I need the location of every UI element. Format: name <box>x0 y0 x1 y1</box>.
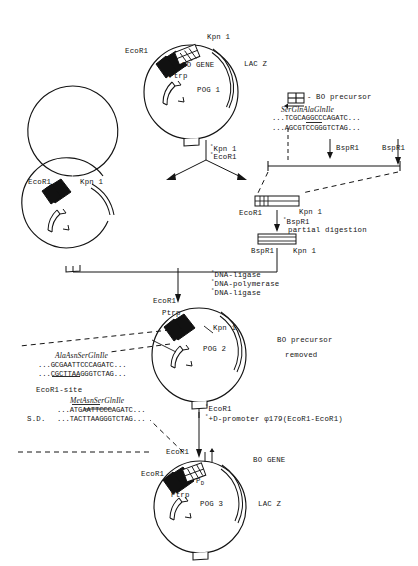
pog1-ptrp-label: Ptrp <box>169 72 188 81</box>
vector-kpn1-label: Kpn 1 <box>80 178 103 187</box>
pog1-kpn1-label: Kpn 1 <box>207 33 230 42</box>
pog2-note-1: BO precursor <box>277 336 333 345</box>
step-partial-2: partial digestion <box>288 226 367 235</box>
seq-top-strand: ...TCGCAGGCCCAGATC... <box>272 114 360 123</box>
seq-mid-top: ...GCGAATTCCCAGATC... <box>38 361 126 370</box>
pog1-ecor1-label: EcoR1 <box>125 47 148 56</box>
pog3-ptrp-label: Ptrp <box>171 491 190 500</box>
pog3-pd-label: PD <box>196 477 204 488</box>
step-dprom-line2: +D-promoter φ179(EcoR1-EcoR1) <box>209 415 343 423</box>
legend-key-label: BO precursor <box>316 93 372 102</box>
fragment-upper-ecor1: EcoR1 <box>239 209 262 218</box>
pog1-bo-gene-label: BO GENE <box>182 61 214 70</box>
pog1-lacz-label: LAC Z <box>244 60 267 69</box>
step-cut1-line2: EcoR1 <box>214 153 237 161</box>
step-cut1b: °EcoR1 <box>210 151 237 163</box>
figure-canvas: Kpn 1 EcoR1 BO GENE Ptrp LAC Z POG 1 - B… <box>0 0 418 566</box>
pog2-kpn1-label: Kpn 1 <box>213 324 236 333</box>
pog2-note-2: removed <box>285 351 317 360</box>
sd-label: S.D. <box>27 415 46 424</box>
seq-bottom-strand: ...AGCGTCCGGGTCTAG... <box>272 124 360 133</box>
fragment-lower-kpn1: Kpn 1 <box>293 247 316 256</box>
fragment-upper-box <box>255 196 299 206</box>
seq-bot-top: ...ATGAATTCCCAGATC... <box>57 406 145 415</box>
bspri-right-label: BspR1 <box>382 144 405 153</box>
diagram-linework <box>0 0 418 566</box>
pog2-ecor1-label: EcoR1 <box>153 297 176 306</box>
legend-dash: - <box>307 93 312 102</box>
seq-bot-bottom: ...TACTTAAGGGTCTAG... <box>57 415 145 424</box>
pog1-ap-arc <box>163 81 184 105</box>
vector-ecor1-label: EcoR1 <box>28 178 51 187</box>
step-ligase-line3: DNA-ligase <box>215 289 261 297</box>
pog1-lacz-arc <box>213 49 234 108</box>
step-ligase-3: °DNA-ligase <box>211 287 261 299</box>
bspri-left-label: BspR1 <box>336 144 359 153</box>
fragment-lower-bspr1: BspR1 <box>251 247 274 256</box>
pog3-lacz-label: LAC Z <box>258 500 281 509</box>
pog3-pd-subscript: D <box>201 480 205 487</box>
seq-mid-bottom: ...CGCTTAAGGGTCTAG... <box>38 370 126 379</box>
pog2-name-label: POG 2 <box>203 345 226 354</box>
seq-mid-aa: AlaAsnSerGlnIle <box>55 351 108 361</box>
pog3-name-label: POG 3 <box>200 500 223 509</box>
pog2-ptrp-label: Ptrp <box>162 309 181 318</box>
step-dprom-2: °+D-promoter φ179(EcoR1-EcoR1) <box>205 413 343 425</box>
legend-key-box <box>288 93 304 103</box>
pog3-ecor1-left-label: EcoR1 <box>141 470 164 479</box>
pog3-ecor1-top-label: EcoR1 <box>166 448 189 457</box>
pog1-name-label: POG 1 <box>197 86 220 95</box>
seq-bot-aa: MetAsnSerGlnIle <box>70 396 124 406</box>
fragment-lower-box <box>258 234 296 244</box>
pog3-bo-gene-label: BO GENE <box>253 456 285 465</box>
ecor1-site-label: EcoR1-site <box>36 386 82 395</box>
